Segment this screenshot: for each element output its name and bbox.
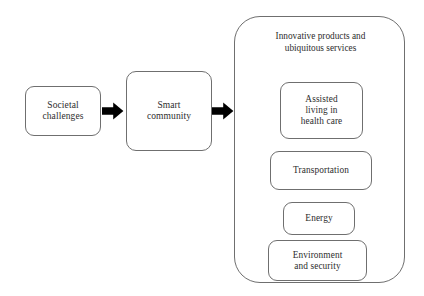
node-societal-challenges-label: Societal challenges [42, 100, 83, 122]
node-assisted-living-in-health-care[interactable]: Assisted living in health care [280, 82, 363, 139]
node-environment-and-security[interactable]: Environment and security [268, 240, 367, 281]
node-energy[interactable]: Energy [283, 202, 355, 235]
node-smart-community-label: Smart community [147, 100, 191, 122]
node-energy-label: Energy [305, 213, 332, 224]
node-assisted-living-label: Assisted living in health care [301, 94, 343, 127]
right-arrow-icon [212, 101, 234, 121]
diagram-canvas: Societal challenges Smart community Inno… [0, 0, 424, 296]
node-transportation[interactable]: Transportation [270, 151, 372, 190]
node-transportation-label: Transportation [293, 165, 349, 176]
node-smart-community[interactable]: Smart community [126, 71, 212, 151]
node-societal-challenges[interactable]: Societal challenges [25, 86, 101, 136]
node-environment-security-label: Environment and security [293, 250, 343, 272]
container-title: Innovative products and ubiquitous servi… [235, 30, 406, 55]
right-arrow-icon [102, 101, 124, 121]
